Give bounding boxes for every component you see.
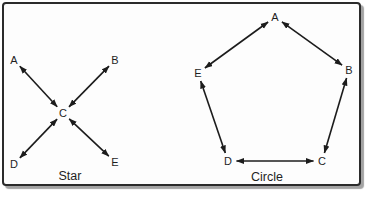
star-caption: Star <box>59 169 82 183</box>
edge-star-E-C <box>69 119 109 156</box>
edge-star-D-C <box>20 119 57 158</box>
node-circle-e: E <box>194 67 201 79</box>
edge-circle-E-A <box>205 22 268 68</box>
node-star-a: A <box>10 54 18 66</box>
edge-star-A-C <box>20 66 57 107</box>
node-star-b: B <box>111 54 118 66</box>
edge-star-B-C <box>69 66 109 107</box>
node-circle-c: C <box>318 155 326 167</box>
node-star-e: E <box>111 156 118 168</box>
edge-circle-D-E <box>201 81 226 153</box>
circle-diagram: ABCDECircle <box>194 11 352 184</box>
star-diagram: ABCDEStar <box>10 54 119 183</box>
topology-diagrams: ABCDEStarABCDECircle <box>0 0 369 198</box>
edge-circle-A-B <box>282 22 342 65</box>
edge-circle-B-C <box>324 78 346 153</box>
node-star-c: C <box>59 107 67 119</box>
figure-stage: ABCDEStarABCDECircle <box>0 0 369 198</box>
node-circle-a: A <box>271 11 279 23</box>
node-circle-b: B <box>345 64 352 76</box>
node-star-d: D <box>10 158 18 170</box>
circle-caption: Circle <box>251 170 283 184</box>
node-circle-d: D <box>224 155 232 167</box>
